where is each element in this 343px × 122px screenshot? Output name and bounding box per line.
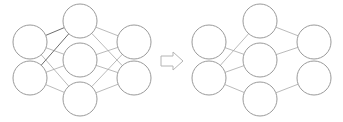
left-output-layer-node: [117, 61, 151, 95]
transition-arrow: [161, 52, 183, 70]
left-edge: [46, 28, 65, 36]
left-output-layer-node: [117, 25, 151, 59]
left-edge: [96, 84, 118, 93]
left-hidden-layer-node: [63, 43, 97, 77]
right-edge: [225, 84, 245, 92]
right-output-layer-node: [297, 25, 331, 59]
right-network-nodes: [192, 4, 331, 116]
right-edge: [225, 66, 244, 73]
left-edge: [46, 48, 64, 54]
right-arrow-icon: [161, 52, 183, 70]
right-input-layer-node: [192, 61, 226, 95]
left-input-layer-node: [13, 61, 47, 95]
left-hidden-layer-node: [63, 82, 97, 116]
right-output-layer-node: [297, 61, 331, 95]
left-edge: [96, 65, 118, 72]
left-edge: [46, 66, 64, 72]
left-input-layer-node: [13, 25, 47, 59]
right-hidden-layer-node: [243, 82, 277, 116]
figure-canvas: [0, 0, 343, 122]
right-hidden-layer-node: [243, 43, 277, 77]
dropout-figure: [0, 0, 343, 122]
left-hidden-layer-node: [63, 4, 97, 38]
right-edge: [276, 27, 298, 36]
left-edge: [96, 27, 118, 36]
right-hidden-layer-node: [243, 4, 277, 38]
left-network-nodes: [13, 4, 151, 116]
left-edge: [46, 85, 65, 93]
right-input-layer-node: [192, 25, 226, 59]
right-edge: [276, 47, 298, 54]
right-edge: [225, 48, 244, 55]
right-edge: [276, 84, 298, 93]
left-edge: [96, 47, 118, 54]
